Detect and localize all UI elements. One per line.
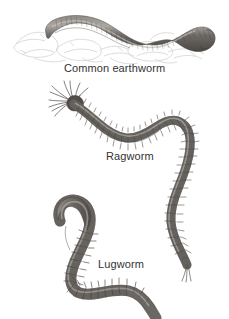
label-common-earthworm: Common earthworm (64, 62, 165, 74)
label-lugworm: Lugworm (98, 258, 144, 270)
worm-illustration-figure: Common earthworm Ragworm Lugworm (0, 0, 229, 319)
soil-substrate-sketch (14, 32, 204, 64)
ragworm-body (49, 81, 199, 282)
label-ragworm: Ragworm (106, 150, 154, 162)
